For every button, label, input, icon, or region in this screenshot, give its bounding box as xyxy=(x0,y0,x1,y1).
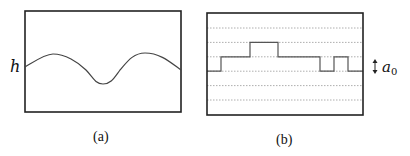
panel-a-frame xyxy=(25,11,181,112)
h-label: h xyxy=(10,57,20,76)
panel-b: a0 (b) xyxy=(207,13,397,148)
double-arrow-icon xyxy=(373,59,378,74)
a0-label: a0 xyxy=(382,58,397,77)
caption-a: (a) xyxy=(93,129,109,145)
lattice-gridlines xyxy=(207,28,363,100)
step-profile xyxy=(207,42,363,71)
figure: h (a) a0 (b) xyxy=(0,0,410,156)
height-profile-curve xyxy=(25,53,181,84)
caption-b: (b) xyxy=(276,132,293,148)
panel-a: h (a) xyxy=(10,11,181,145)
